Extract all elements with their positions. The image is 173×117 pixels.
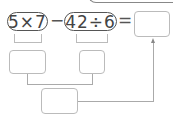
- top-curve: [88, 0, 173, 3]
- intermediate-box-2[interactable]: [79, 50, 105, 74]
- connector-left: [27, 74, 28, 84]
- term1-pill: 5×7: [7, 12, 48, 31]
- result-line-horizontal: [78, 101, 154, 102]
- connector-right: [92, 74, 93, 84]
- connector-horizontal: [27, 84, 93, 85]
- minus-operator: −: [50, 11, 64, 30]
- result-line-vertical: [153, 42, 154, 102]
- answer-box[interactable]: [134, 11, 170, 37]
- bracket-term1: [14, 34, 42, 43]
- arrow-up-icon: [151, 38, 155, 43]
- result-box[interactable]: [41, 88, 78, 114]
- intermediate-box-1[interactable]: [9, 50, 46, 74]
- bracket-term2: [76, 34, 108, 43]
- term2-pill: 42÷6: [64, 12, 117, 31]
- equals-sign: =: [118, 11, 132, 30]
